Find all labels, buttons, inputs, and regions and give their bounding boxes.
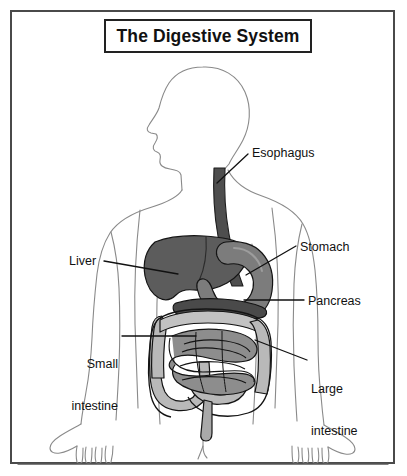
digestive-system-figure-page: The Digestive System Esophagus Stomach P… (0, 0, 407, 476)
head-outline (147, 67, 249, 190)
waist-right-line (272, 208, 278, 408)
waist-left-line (135, 210, 140, 408)
figure-title-box: The Digestive System (104, 19, 312, 53)
label-large-intestine: Large intestine (311, 354, 358, 466)
label-pancreas: Pancreas (308, 294, 361, 308)
small-intestine-organ (169, 329, 257, 395)
label-small-intestine: Small intestine (34, 329, 118, 441)
label-liver: Liver (69, 254, 96, 268)
label-small-intestine-line2: intestine (34, 399, 118, 413)
rectum-segment (201, 400, 212, 441)
leg-gap-line-2 (198, 446, 203, 459)
label-small-intestine-line1: Small (34, 357, 118, 371)
left-hand-fingers (76, 446, 113, 464)
label-large-intestine-line1: Large (311, 382, 358, 396)
label-esophagus: Esophagus (252, 146, 315, 160)
label-stomach: Stomach (300, 240, 349, 254)
page-title: The Digestive System (117, 26, 300, 47)
label-large-intestine-line2: intestine (311, 424, 358, 438)
